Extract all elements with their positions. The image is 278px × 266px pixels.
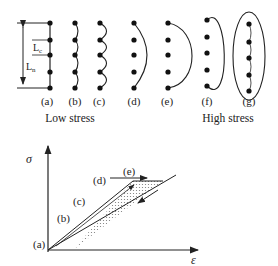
point-b: (b) (57, 212, 70, 225)
point-d: (d) (93, 174, 106, 187)
column-a: Lc Ln (17, 20, 53, 90)
column-d (131, 20, 147, 90)
epsilon-axis-label: ε (191, 253, 196, 266)
sigma-axis-label: σ (26, 152, 33, 166)
stress-strain-plot: σ ε (a) (b) (c) (d) (e) (26, 146, 198, 266)
column-e (165, 20, 192, 90)
label-a: (a) (41, 95, 54, 108)
label-b: (b) (69, 95, 82, 108)
high-stress-label: High stress (202, 112, 254, 125)
svg-text:Lc: Lc (33, 42, 42, 55)
column-b (72, 20, 78, 90)
label-f: (f) (202, 95, 213, 108)
svg-text:Ln: Ln (26, 61, 36, 74)
label-d: (d) (128, 95, 141, 108)
column-f (204, 17, 224, 89)
column-g (233, 12, 265, 100)
dislocation-diagram: Lc Ln (0, 0, 278, 266)
label-g: (g) (243, 95, 256, 108)
point-c: (c) (73, 195, 86, 208)
column-c (97, 20, 106, 90)
point-a: (a) (33, 238, 46, 251)
label-e: (e) (161, 95, 174, 108)
low-stress-label: Low stress (45, 112, 95, 124)
point-e: (e) (123, 165, 136, 178)
column-labels: (a) (b) (c) (d) (e) (f) (g) (41, 95, 256, 108)
label-c: (c) (93, 95, 106, 108)
